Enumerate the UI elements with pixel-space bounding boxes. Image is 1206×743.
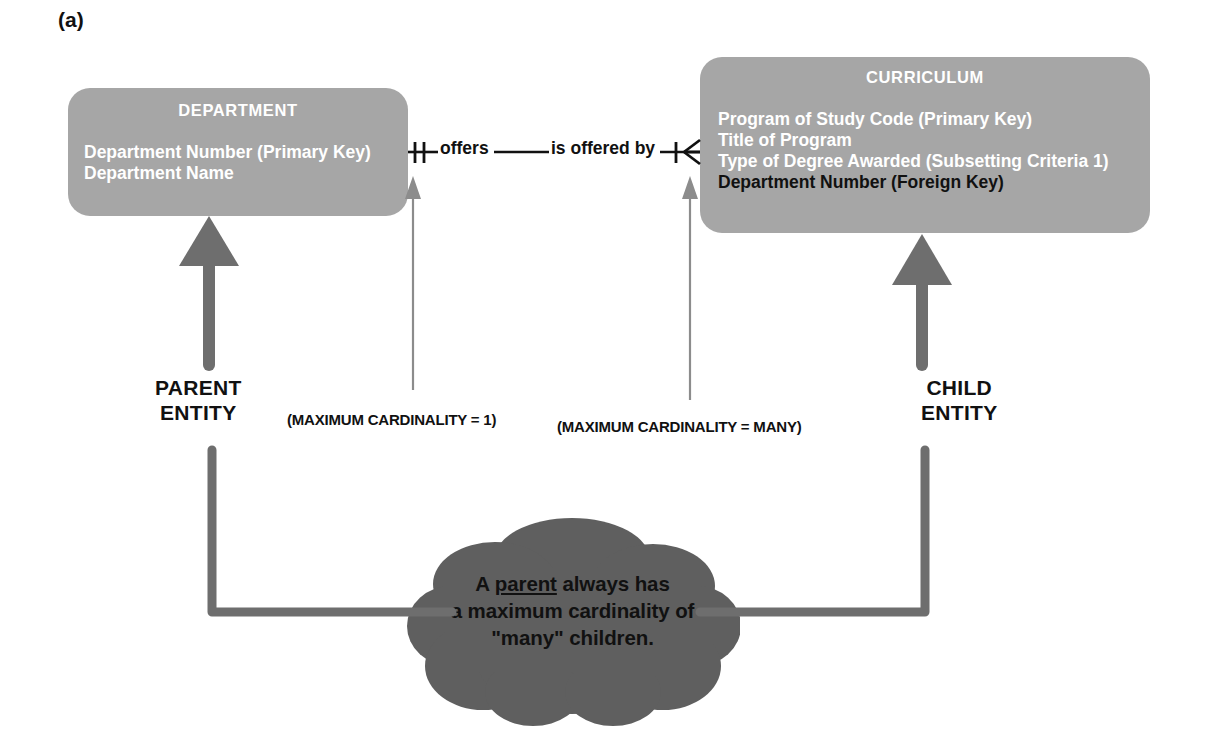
caption-child-entity-line1: CHILD	[921, 375, 997, 400]
cloud-text-line1: A parent always has	[405, 570, 740, 597]
cloud-text-line2: a maximum cardinality of	[405, 597, 740, 624]
caption-parent-entity-line2: ENTITY	[155, 400, 242, 425]
note-maximum-cardinality-one: (MAXIMUM CARDINALITY = 1)	[287, 411, 496, 428]
cloud-callout-text: A parent always has a maximum cardinalit…	[405, 570, 740, 651]
attribute-item: Department Name	[84, 163, 408, 184]
diagram-canvas: (a) DEPARTMENT Department Number (Primar…	[0, 0, 1206, 743]
figure-label: (a)	[58, 8, 84, 32]
caption-child-entity: CHILD ENTITY	[921, 375, 997, 425]
pointer-arrow-max-cardinality-many	[682, 176, 698, 400]
entity-title-department: DEPARTMENT	[68, 101, 408, 120]
pointer-arrow-max-cardinality-one	[405, 176, 421, 390]
attribute-item: Department Number (Primary Key)	[84, 142, 408, 163]
note-maximum-cardinality-many: (MAXIMUM CARDINALITY = MANY)	[557, 418, 802, 435]
cloud-callout: A parent always has a maximum cardinalit…	[405, 508, 740, 730]
cardinality-symbol-one-and-only-one	[415, 142, 424, 163]
caption-parent-entity-line1: PARENT	[155, 375, 242, 400]
entity-box-curriculum[interactable]: CURRICULUM Program of Study Code (Primar…	[700, 57, 1150, 233]
relationship-label-is-offered-by: is offered by	[551, 138, 655, 159]
caption-child-entity-line2: ENTITY	[921, 400, 997, 425]
pointer-arrow-parent-entity	[179, 216, 239, 365]
entity-box-department[interactable]: DEPARTMENT Department Number (Primary Ke…	[68, 88, 408, 216]
cloud-line1-underlined-word: parent	[495, 572, 557, 595]
attribute-item-foreign-key: Department Number (Foreign Key)	[718, 172, 1150, 193]
cloud-text-line3: "many" children.	[405, 624, 740, 651]
attribute-list-curriculum: Program of Study Code (Primary Key) Titl…	[718, 109, 1150, 193]
entity-title-curriculum: CURRICULUM	[700, 68, 1150, 87]
pointer-arrow-child-entity	[892, 234, 952, 365]
cardinality-symbol-crows-foot	[676, 140, 700, 164]
attribute-list-department: Department Number (Primary Key) Departme…	[84, 142, 408, 184]
attribute-item: Type of Degree Awarded (Subsetting Crite…	[718, 151, 1150, 172]
attribute-item: Title of Program	[718, 130, 1150, 151]
cloud-line1-suffix: always has	[557, 572, 670, 595]
attribute-item: Program of Study Code (Primary Key)	[718, 109, 1150, 130]
caption-parent-entity: PARENT ENTITY	[155, 375, 242, 425]
cloud-line1-prefix: A	[475, 572, 495, 595]
relationship-label-offers: offers	[440, 138, 489, 159]
